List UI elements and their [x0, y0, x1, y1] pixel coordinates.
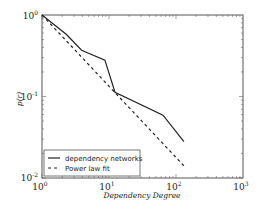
- x-axis-label: Dependency Degree: [102, 191, 181, 200]
- chart: 100 10-1 10-2 100 101 102 103 Dependency…: [0, 0, 261, 208]
- x-tick-0: 100: [32, 180, 47, 192]
- y-tick-0: 100: [23, 9, 38, 21]
- legend: dependency networks Power law fit: [44, 150, 143, 176]
- x-tick-3: 103: [233, 180, 248, 192]
- legend-label-1: Power law fit: [65, 165, 110, 173]
- legend-label-0: dependency networks: [65, 155, 143, 163]
- y-axis-label: p(r): [15, 92, 24, 106]
